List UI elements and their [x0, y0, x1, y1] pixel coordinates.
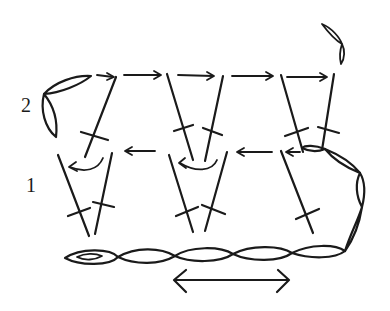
- turning-chain-left: [43, 76, 91, 137]
- crochet-chart: [0, 0, 390, 311]
- turning-chain-right: [302, 146, 364, 251]
- row-1-stitches: [58, 147, 319, 236]
- foundation-chain: [65, 246, 345, 264]
- turning-chain-top: [322, 24, 344, 64]
- row-2-stitches: [81, 71, 339, 161]
- direction-arrow: [174, 270, 289, 292]
